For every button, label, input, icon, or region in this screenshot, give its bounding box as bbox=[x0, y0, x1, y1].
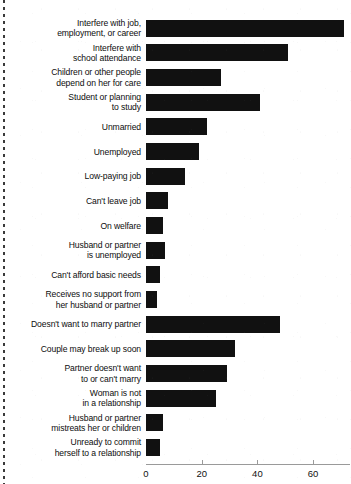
bar-track bbox=[145, 164, 351, 189]
bar bbox=[146, 439, 160, 456]
bar-track bbox=[145, 287, 351, 312]
bar-row: Receives no support from her husband or … bbox=[0, 287, 351, 312]
bar bbox=[146, 266, 160, 283]
bar-category-label: Unready to commit herself to a relations… bbox=[0, 437, 145, 457]
bar-row: Couple may break up soon bbox=[0, 337, 351, 362]
bar-row: Interfere with school attendance bbox=[0, 41, 351, 66]
bar bbox=[146, 217, 163, 234]
bar-row: Doesn't want to marry partner bbox=[0, 312, 351, 337]
bar-category-label: On welfare bbox=[0, 221, 145, 231]
bar-track bbox=[145, 139, 351, 164]
horizontal-bar-chart: Interfere with job, employment, or caree… bbox=[0, 0, 351, 484]
bar-track bbox=[145, 263, 351, 288]
bar-category-label: Children or other people depend on her f… bbox=[0, 67, 145, 87]
bar-track bbox=[145, 90, 351, 115]
x-axis-tick-label: 20 bbox=[196, 468, 207, 479]
x-axis-tick bbox=[313, 460, 314, 465]
bar-category-label: Can't afford basic needs bbox=[0, 270, 145, 280]
bar-category-label: Interfere with school attendance bbox=[0, 43, 145, 63]
bar-track bbox=[145, 337, 351, 362]
bar-category-label: Receives no support from her husband or … bbox=[0, 289, 145, 309]
bar-row: Interfere with job, employment, or caree… bbox=[0, 16, 351, 41]
bar-track bbox=[145, 213, 351, 238]
x-axis-tick bbox=[257, 460, 258, 465]
bar-row: On welfare bbox=[0, 213, 351, 238]
bar-row: Partner doesn't want to or can't marry bbox=[0, 361, 351, 386]
bar-row: Low-paying job bbox=[0, 164, 351, 189]
bar-track bbox=[145, 189, 351, 214]
bar-track bbox=[145, 115, 351, 140]
bar-row: Children or other people depend on her f… bbox=[0, 65, 351, 90]
x-axis-tick-label: 60 bbox=[308, 468, 319, 479]
bar-category-label: Doesn't want to marry partner bbox=[0, 319, 145, 329]
bar-category-label: Couple may break up soon bbox=[0, 344, 145, 354]
bar-row: Husband or partner is unemployed bbox=[0, 238, 351, 263]
bar-row: Can't afford basic needs bbox=[0, 263, 351, 288]
bar-category-label: Husband or partner mistreats her or chil… bbox=[0, 413, 145, 433]
bar bbox=[146, 143, 199, 160]
bar bbox=[146, 192, 168, 209]
bar-track bbox=[145, 435, 351, 460]
bar-track bbox=[145, 65, 351, 90]
bar bbox=[146, 291, 157, 308]
bar-category-label: Partner doesn't want to or can't marry bbox=[0, 363, 145, 383]
bar-track bbox=[145, 41, 351, 66]
x-axis-tick-label: 40 bbox=[252, 468, 263, 479]
bar-category-label: Interfere with job, employment, or caree… bbox=[0, 18, 145, 38]
bar bbox=[146, 69, 221, 86]
bar-category-label: Unmarried bbox=[0, 122, 145, 132]
bar-category-label: Low-paying job bbox=[0, 171, 145, 181]
bar bbox=[146, 242, 165, 259]
bar-row: Unready to commit herself to a relations… bbox=[0, 435, 351, 460]
bar-track bbox=[145, 361, 351, 386]
bar bbox=[146, 20, 344, 37]
bar bbox=[146, 390, 216, 407]
bar-category-label: Unemployed bbox=[0, 147, 145, 157]
x-axis-tick-label: 0 bbox=[143, 468, 148, 479]
bar bbox=[146, 365, 227, 382]
bar-track bbox=[145, 238, 351, 263]
bar bbox=[146, 340, 235, 357]
bar-track bbox=[145, 411, 351, 436]
bar bbox=[146, 44, 288, 61]
bar bbox=[146, 414, 163, 431]
bar-track bbox=[145, 312, 351, 337]
bar-category-label: Husband or partner is unemployed bbox=[0, 240, 145, 260]
bar-track bbox=[145, 16, 351, 41]
bar bbox=[146, 168, 185, 185]
x-axis-tick bbox=[202, 460, 203, 465]
chart-plot-area: Interfere with job, employment, or caree… bbox=[0, 0, 351, 464]
bar-row: Husband or partner mistreats her or chil… bbox=[0, 411, 351, 436]
bar-row: Unmarried bbox=[0, 115, 351, 140]
x-axis-line bbox=[146, 464, 350, 465]
bar-row: Woman is not in a relationship bbox=[0, 386, 351, 411]
bar-category-label: Can't leave job bbox=[0, 196, 145, 206]
bar bbox=[146, 118, 207, 135]
bar bbox=[146, 94, 260, 111]
bar-row: Unemployed bbox=[0, 139, 351, 164]
bar-row: Student or planning to study bbox=[0, 90, 351, 115]
bar-row: Can't leave job bbox=[0, 189, 351, 214]
bar-category-label: Student or planning to study bbox=[0, 92, 145, 112]
bar bbox=[146, 316, 280, 333]
bar-track bbox=[145, 386, 351, 411]
bar-category-label: Woman is not in a relationship bbox=[0, 388, 145, 408]
